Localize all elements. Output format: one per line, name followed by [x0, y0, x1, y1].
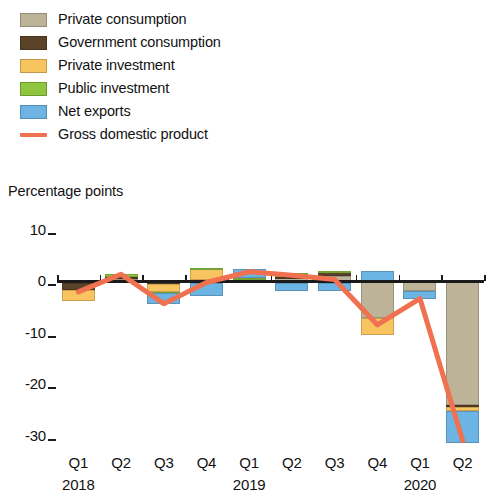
bar-segment [233, 269, 266, 278]
bar-segment [403, 291, 436, 298]
chart-plot-area: 100-10-20-30 Q1Q2Q3Q4Q1Q2Q3Q4Q1Q22018201… [0, 0, 490, 496]
y-tick-dash-neg30 [48, 439, 56, 441]
x-axis-tick [57, 275, 59, 281]
x-axis-tick [271, 275, 273, 281]
y-tick-dash-0 [48, 284, 56, 286]
x-axis-tick [356, 275, 358, 281]
x-axis-quarter-label: Q2 [100, 455, 143, 470]
y-tick-dash-neg10 [48, 336, 56, 338]
bar-segment [318, 272, 351, 276]
gdp-line-series [0, 0, 490, 496]
x-axis-quarter-label: Q1 [228, 455, 271, 470]
bar-segment [147, 293, 180, 304]
x-axis-quarter-label: Q1 [399, 455, 442, 470]
bar-segment [275, 283, 308, 292]
x-axis-tick [142, 275, 144, 281]
x-axis-quarter-label: Q2 [441, 455, 484, 470]
bar-segment [62, 283, 95, 290]
bar-segment [190, 283, 223, 296]
x-axis-year-label: 2018 [57, 477, 100, 492]
bar-segment [275, 273, 308, 277]
bar-segment [147, 284, 180, 292]
x-axis-year-label: 2019 [228, 477, 271, 492]
x-axis-quarter-label: Q4 [185, 455, 228, 470]
x-axis-quarter-label: Q3 [142, 455, 185, 470]
x-axis-tick [185, 275, 187, 281]
bar-segment [105, 274, 138, 277]
bar-segment [190, 268, 223, 270]
x-axis-tick [313, 275, 315, 281]
y-tick-label-0: 0 [0, 273, 46, 288]
bar-segment [446, 281, 479, 405]
bar-segment [446, 411, 479, 442]
x-axis-quarter-label: Q4 [356, 455, 399, 470]
x-axis-quarter-label: Q2 [271, 455, 314, 470]
bar-segment [403, 281, 436, 291]
bar-segment [275, 277, 308, 279]
y-tick-label-neg20: -20 [0, 376, 46, 391]
bar-segment [318, 271, 351, 273]
bar-segment [190, 268, 223, 280]
x-axis-tick [399, 275, 401, 281]
y-tick-dash-10 [48, 233, 56, 235]
x-axis-tick [100, 275, 102, 281]
x-axis-year-label: 2020 [399, 477, 442, 492]
x-axis-quarter-label: Q1 [57, 455, 100, 470]
x-axis-tick [441, 275, 443, 281]
y-tick-label-neg30: -30 [0, 428, 46, 443]
bar-segment [62, 290, 95, 301]
y-tick-label-10: 10 [0, 222, 46, 237]
bar-segment [361, 281, 394, 318]
bar-segment [361, 318, 394, 335]
y-tick-dash-neg20 [48, 387, 56, 389]
x-axis-tick [484, 275, 486, 281]
x-axis-tick [228, 275, 230, 281]
y-tick-label-neg10: -10 [0, 325, 46, 340]
bar-segment [318, 283, 351, 291]
x-axis-quarter-label: Q3 [313, 455, 356, 470]
